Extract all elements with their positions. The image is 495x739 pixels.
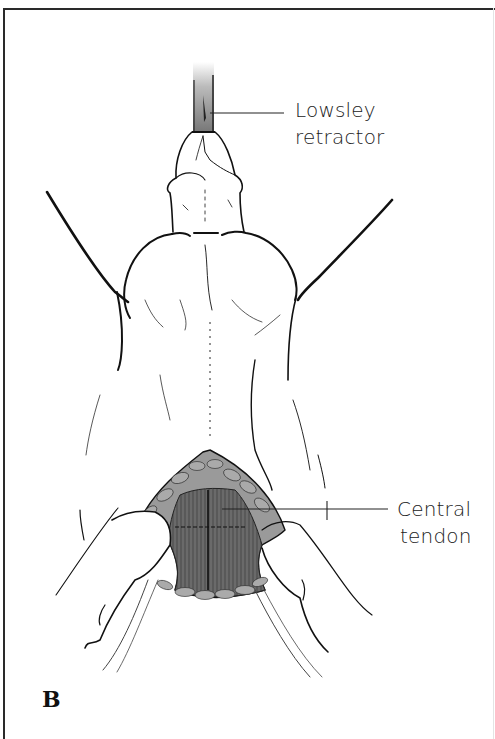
label-line: tendon [397, 523, 472, 550]
scrotum-outline [124, 232, 296, 335]
label-central-tendon: Central tendon [397, 496, 472, 550]
label-line: retractor [295, 124, 385, 151]
penis-outline [168, 132, 244, 232]
label-line: Central [397, 496, 472, 523]
label-line: Lowsley [295, 97, 385, 124]
lowsley-retractor [192, 62, 215, 132]
label-lowsley-retractor: Lowsley retractor [295, 97, 385, 151]
surgical-illustration [0, 0, 495, 739]
leader-lines [210, 113, 388, 520]
panel-letter: B [42, 686, 61, 712]
